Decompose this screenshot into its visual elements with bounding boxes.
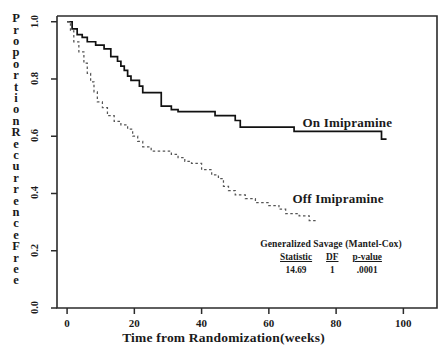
series-label-1: On Imipramine: [302, 115, 392, 131]
kaplan-meier-chart: ProportionRecurrenceFree 020406080100 0.…: [0, 0, 447, 362]
statistics-title: Generalized Savage (Mantel-Cox): [246, 238, 416, 249]
x-tick-label: 0: [47, 317, 87, 329]
statistics-col-statistic: Statistic: [273, 252, 319, 263]
statistics-header-row: Statistic DF p-value: [273, 252, 389, 263]
y-tick-label: 1.0: [29, 8, 40, 34]
x-axis-tick-marks: [67, 308, 403, 314]
plot-area: [0, 0, 447, 362]
statistics-value-row: 14.69 1 .0001: [273, 263, 389, 275]
x-tick-label: 20: [114, 317, 154, 329]
statistics-table: Statistic DF p-value 14.69 1 .0001: [273, 252, 389, 275]
statistics-annotation: Generalized Savage (Mantel-Cox) Statisti…: [246, 238, 416, 275]
y-tick-label: 0.2: [29, 237, 40, 263]
statistics-col-df: DF: [319, 252, 345, 263]
statistics-value-df: 1: [319, 263, 345, 275]
x-tick-label: 40: [182, 317, 222, 329]
y-tick-label: 0.6: [29, 123, 40, 149]
series-label-2: Off Imipramine: [292, 191, 383, 207]
x-tick-label: 100: [383, 317, 423, 329]
x-tick-label: 80: [316, 317, 356, 329]
y-axis-tick-marks: [51, 22, 57, 308]
statistics-value-pvalue: .0001: [345, 263, 388, 275]
series-line-2: [67, 22, 318, 221]
x-axis-title: Time from Randomization(weeks): [0, 330, 447, 346]
y-tick-label: 0.4: [29, 180, 40, 206]
y-tick-label: 0.0: [29, 295, 40, 321]
y-tick-label: 0.8: [29, 65, 40, 91]
statistics-col-pvalue: p-value: [345, 252, 388, 263]
statistics-value-statistic: 14.69: [273, 263, 319, 275]
x-tick-label: 60: [249, 317, 289, 329]
